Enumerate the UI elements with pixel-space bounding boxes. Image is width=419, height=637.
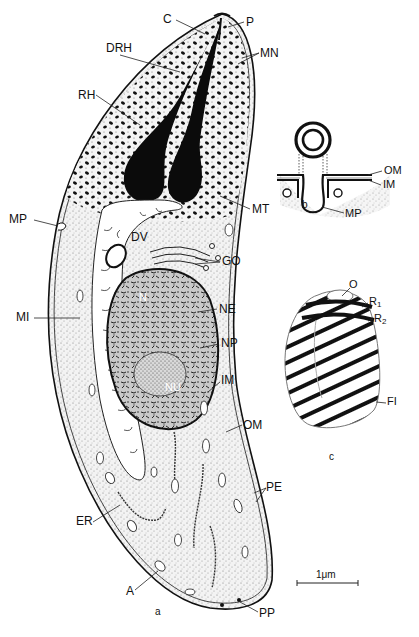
label-panel-a-mt: MT	[252, 203, 269, 215]
micropore-top-view-outer	[296, 123, 330, 157]
label-panel-b-im: IM	[383, 179, 395, 190]
posterior-pole-mark	[237, 598, 241, 602]
label-panel-a-p: P	[246, 16, 254, 28]
label-panel-c-r2: R2	[374, 313, 386, 326]
microtubule-right	[334, 189, 342, 197]
scale-bar	[297, 580, 358, 586]
micropore-top-view-inner	[303, 130, 323, 150]
label-panel-a-c: C	[163, 13, 172, 25]
label-panel-a-drh: DRH	[106, 42, 132, 54]
panel-b-micropore	[277, 123, 390, 218]
label-panel-c-r1: R1	[369, 296, 381, 309]
label-panel-b-om: OM	[384, 165, 402, 176]
panel-label-a: a	[155, 607, 161, 617]
label-panel-a-a: A	[126, 585, 134, 597]
label-panel-b-mp: MP	[345, 208, 362, 219]
label-panel-a-pe: PE	[266, 481, 282, 493]
label-panel-a-im: IM	[221, 374, 234, 386]
label-panel-a-mp: MP	[9, 213, 27, 225]
label-panel-a-np: NP	[221, 337, 238, 349]
zoite-diagram	[0, 0, 419, 637]
panel-label-c: c	[329, 452, 334, 462]
label-panel-a-er: ER	[76, 515, 93, 527]
label-panel-a-go: GO	[222, 255, 241, 267]
panel-label-b: b	[302, 200, 308, 210]
label-panel-c-o: O	[349, 279, 358, 290]
label-panel-a-ne: NE	[219, 303, 236, 315]
label-panel-a-mn: MN	[260, 47, 279, 59]
label-panel-a-om: OM	[243, 419, 262, 431]
label-panel-a-n: N	[139, 292, 147, 303]
label-panel-a-pp: PP	[259, 607, 275, 619]
posterior-pole-mark	[220, 603, 224, 607]
scale-bar-label: 1μm	[316, 570, 336, 580]
label-panel-c-fi: FI	[387, 396, 397, 407]
conoid-body	[285, 291, 380, 428]
label-panel-a-mi: MI	[16, 311, 29, 323]
label-panel-a-nu: NU	[165, 382, 181, 393]
microtubule-left	[283, 189, 291, 197]
label-panel-a-dv: DV	[131, 231, 148, 243]
label-panel-a-rh: RH	[78, 89, 95, 101]
